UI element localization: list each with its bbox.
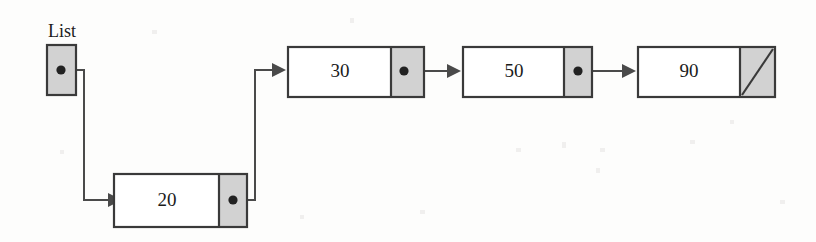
list-head-pointer[interactable]: List <box>47 21 76 95</box>
node-30[interactable]: 30 <box>288 47 424 97</box>
node-20[interactable]: 20 <box>114 174 247 227</box>
linked-list-diagram: List 20 30 50 <box>0 0 816 242</box>
list-head-pointer-dot <box>56 65 65 74</box>
node-50[interactable]: 50 <box>463 47 592 97</box>
node-30-pointer-dot <box>399 66 408 75</box>
node-90[interactable]: 90 <box>638 47 775 97</box>
node-50-value: 50 <box>505 60 524 81</box>
node-50-pointer-dot <box>573 66 582 75</box>
list-head-pointer-label: List <box>48 21 76 41</box>
node-20-pointer-dot <box>228 195 237 204</box>
node-20-value: 20 <box>158 189 177 210</box>
node-90-value: 90 <box>680 60 699 81</box>
node-30-value: 30 <box>331 60 350 81</box>
diagram-canvas: List 20 30 50 <box>0 0 816 242</box>
